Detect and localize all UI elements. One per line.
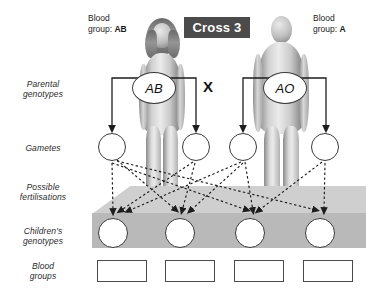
mother-genotype-label: AB bbox=[145, 81, 162, 96]
father-blood-caption-prefix: group: bbox=[313, 24, 339, 34]
gamete-circle-1 bbox=[98, 133, 126, 161]
father-blood-caption-line1: Blood bbox=[313, 13, 346, 24]
mother-hair-side-right bbox=[168, 30, 180, 58]
cross-title-badge: Cross 3 bbox=[184, 17, 250, 38]
fertilisation-slab-top bbox=[92, 186, 366, 214]
mother-blood-caption-prefix: group: bbox=[88, 24, 114, 34]
child-genotype-circle-2 bbox=[165, 218, 195, 248]
father-genotype-circle: AO bbox=[263, 72, 307, 104]
father-genotype-label: AO bbox=[276, 81, 295, 96]
child-blood-group-box-3[interactable] bbox=[234, 260, 284, 282]
father-blood-caption-line2: group: A bbox=[313, 24, 346, 35]
father-left-arm bbox=[253, 54, 263, 132]
row-label-line2: fertilisations bbox=[4, 192, 82, 202]
row-label-parental-genotypes: Parental genotypes bbox=[4, 79, 82, 99]
row-label-line2: groups bbox=[4, 271, 82, 281]
mother-blood-group-value: AB bbox=[114, 24, 126, 34]
row-label-line1: Parental bbox=[4, 79, 82, 89]
row-label-childrens-genotypes: Children's genotypes bbox=[4, 226, 82, 246]
child-genotype-circle-3 bbox=[235, 218, 265, 248]
gamete-circle-2 bbox=[182, 133, 210, 161]
row-label-line1: Children's bbox=[4, 226, 82, 236]
gamete-circle-4 bbox=[311, 133, 339, 161]
gamete-circle-3 bbox=[229, 133, 257, 161]
cross-multiply-symbol: X bbox=[203, 78, 213, 95]
row-label-line1: Blood bbox=[4, 261, 82, 271]
mother-blood-caption-line2: group: AB bbox=[88, 24, 127, 35]
child-blood-group-box-1[interactable] bbox=[97, 260, 147, 282]
row-label-possible-fertilisations: Possible fertilisations bbox=[4, 182, 82, 202]
father-blood-group-value: A bbox=[339, 24, 345, 34]
child-blood-group-box-2[interactable] bbox=[165, 260, 215, 282]
row-label-gametes: Gametes bbox=[4, 143, 82, 153]
row-label-line2: genotypes bbox=[4, 236, 82, 246]
mother-genotype-circle: AB bbox=[132, 72, 176, 104]
row-label-blood-groups: Blood groups bbox=[4, 261, 82, 281]
row-label-line1: Gametes bbox=[4, 143, 82, 153]
mother-blood-group-caption: Blood group: AB bbox=[88, 13, 127, 34]
genetics-cross-diagram: Parental genotypes Gametes Possible fert… bbox=[0, 0, 366, 300]
row-label-line1: Possible bbox=[4, 182, 82, 192]
child-genotype-circle-1 bbox=[98, 218, 128, 248]
father-blood-group-caption: Blood group: A bbox=[313, 13, 346, 34]
mother-blood-caption-line1: Blood bbox=[88, 13, 127, 24]
mother-right-arm bbox=[176, 64, 185, 130]
row-label-line2: genotypes bbox=[4, 89, 82, 99]
child-genotype-circle-4 bbox=[305, 218, 335, 248]
child-blood-group-box-4[interactable] bbox=[303, 260, 353, 282]
father-head bbox=[271, 16, 292, 43]
